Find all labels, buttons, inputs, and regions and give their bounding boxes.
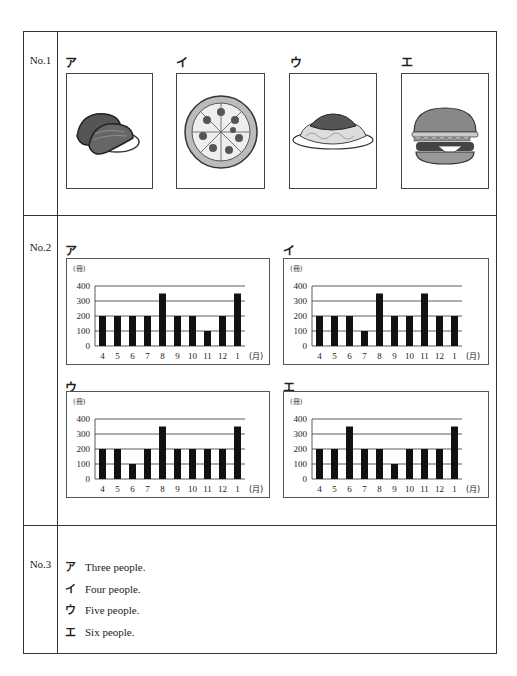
svg-text:(月): (月) bbox=[466, 485, 480, 494]
answer-text: Five people. bbox=[85, 604, 139, 616]
option-card-hamburger[interactable] bbox=[401, 73, 489, 189]
svg-text:8: 8 bbox=[377, 484, 382, 494]
hamburger-icon bbox=[402, 74, 488, 188]
svg-text:9: 9 bbox=[175, 351, 180, 361]
svg-text:300: 300 bbox=[294, 296, 308, 306]
option-card-pizza[interactable] bbox=[176, 73, 265, 189]
spaghetti-icon bbox=[290, 74, 376, 188]
option-key: ア bbox=[65, 53, 77, 70]
row-divider bbox=[24, 215, 496, 216]
question-number-1: No.1 bbox=[24, 54, 57, 66]
svg-text:4: 4 bbox=[100, 351, 105, 361]
bar-chart-e-plot: (冊)01002003004004567891011121(月) bbox=[284, 392, 488, 497]
svg-text:0: 0 bbox=[303, 474, 308, 484]
svg-text:4: 4 bbox=[317, 484, 322, 494]
svg-text:4: 4 bbox=[100, 484, 105, 494]
row-divider bbox=[24, 525, 496, 526]
svg-text:11: 11 bbox=[420, 484, 429, 494]
answer-option-i[interactable]: イFour people. bbox=[65, 580, 141, 596]
svg-text:7: 7 bbox=[362, 484, 367, 494]
svg-text:1: 1 bbox=[452, 484, 457, 494]
svg-text:300: 300 bbox=[77, 296, 91, 306]
option-key: ア bbox=[65, 241, 77, 258]
svg-text:400: 400 bbox=[77, 414, 91, 424]
bar-chart-i-plot: (冊)01002003004004567891011121(月) bbox=[284, 259, 488, 364]
svg-text:7: 7 bbox=[145, 484, 150, 494]
svg-text:12: 12 bbox=[218, 484, 227, 494]
svg-text:300: 300 bbox=[77, 429, 91, 439]
answer-option-u[interactable]: ウFive people. bbox=[65, 601, 139, 617]
svg-text:8: 8 bbox=[160, 484, 165, 494]
svg-text:0: 0 bbox=[86, 474, 91, 484]
svg-text:11: 11 bbox=[420, 351, 429, 361]
answer-option-a[interactable]: アThree people. bbox=[65, 558, 145, 574]
answer-option-e[interactable]: エSix people. bbox=[65, 623, 135, 639]
answer-text: Six people. bbox=[85, 626, 135, 638]
svg-text:(月): (月) bbox=[249, 485, 263, 494]
svg-text:400: 400 bbox=[77, 281, 91, 291]
bar-chart-a-plot: (冊)01002003004004567891011121(月) bbox=[67, 259, 269, 364]
option-card-sushi[interactable] bbox=[66, 73, 153, 189]
question-sheet: No.1 ア イ ウ エ bbox=[23, 31, 497, 654]
svg-text:300: 300 bbox=[294, 429, 308, 439]
svg-text:7: 7 bbox=[145, 351, 150, 361]
svg-text:200: 200 bbox=[77, 444, 91, 454]
svg-text:(冊): (冊) bbox=[73, 265, 86, 273]
bar-chart-a[interactable]: (冊)01002003004004567891011121(月) bbox=[66, 258, 270, 365]
svg-text:100: 100 bbox=[294, 326, 308, 336]
bar-chart-i[interactable]: (冊)01002003004004567891011121(月) bbox=[283, 258, 489, 365]
svg-text:1: 1 bbox=[235, 351, 240, 361]
svg-text:200: 200 bbox=[294, 444, 308, 454]
option-key: イ bbox=[176, 53, 188, 70]
svg-text:10: 10 bbox=[405, 351, 415, 361]
sushi-icon bbox=[67, 74, 152, 188]
option-key: イ bbox=[283, 241, 295, 258]
option-card-spaghetti[interactable] bbox=[289, 73, 377, 189]
option-key: ウ bbox=[290, 53, 302, 70]
column-divider bbox=[57, 32, 58, 653]
question-number-2: No.2 bbox=[24, 241, 57, 253]
svg-text:9: 9 bbox=[175, 484, 180, 494]
svg-text:12: 12 bbox=[435, 351, 444, 361]
svg-text:7: 7 bbox=[362, 351, 367, 361]
svg-text:5: 5 bbox=[332, 351, 337, 361]
svg-text:100: 100 bbox=[294, 459, 308, 469]
bar-chart-e[interactable]: (冊)01002003004004567891011121(月) bbox=[283, 391, 489, 498]
svg-text:100: 100 bbox=[77, 459, 91, 469]
svg-text:5: 5 bbox=[115, 484, 120, 494]
bar-chart-u[interactable]: (冊)01002003004004567891011121(月) bbox=[66, 391, 270, 498]
svg-text:1: 1 bbox=[235, 484, 240, 494]
svg-text:(月): (月) bbox=[466, 352, 480, 361]
question-number-3: No.3 bbox=[24, 558, 57, 570]
svg-text:8: 8 bbox=[160, 351, 165, 361]
svg-text:100: 100 bbox=[77, 326, 91, 336]
svg-text:9: 9 bbox=[392, 351, 397, 361]
pizza-icon bbox=[177, 74, 264, 188]
svg-text:6: 6 bbox=[347, 351, 352, 361]
svg-text:12: 12 bbox=[435, 484, 444, 494]
svg-text:(冊): (冊) bbox=[290, 265, 303, 273]
svg-text:5: 5 bbox=[332, 484, 337, 494]
bar-chart-u-plot: (冊)01002003004004567891011121(月) bbox=[67, 392, 269, 497]
svg-text:10: 10 bbox=[188, 484, 198, 494]
svg-text:200: 200 bbox=[77, 311, 91, 321]
svg-text:10: 10 bbox=[188, 351, 198, 361]
option-key: エ bbox=[401, 53, 413, 70]
svg-text:(月): (月) bbox=[249, 352, 263, 361]
svg-text:8: 8 bbox=[377, 351, 382, 361]
svg-text:10: 10 bbox=[405, 484, 415, 494]
svg-text:0: 0 bbox=[86, 341, 91, 351]
svg-text:5: 5 bbox=[115, 351, 120, 361]
svg-text:400: 400 bbox=[294, 414, 308, 424]
answer-text: Three people. bbox=[85, 561, 145, 573]
svg-text:11: 11 bbox=[203, 484, 212, 494]
svg-text:6: 6 bbox=[347, 484, 352, 494]
svg-text:(冊): (冊) bbox=[73, 398, 86, 406]
svg-text:12: 12 bbox=[218, 351, 227, 361]
svg-text:6: 6 bbox=[130, 351, 135, 361]
svg-text:0: 0 bbox=[303, 341, 308, 351]
answer-text: Four people. bbox=[85, 583, 141, 595]
svg-text:400: 400 bbox=[294, 281, 308, 291]
svg-text:200: 200 bbox=[294, 311, 308, 321]
svg-text:6: 6 bbox=[130, 484, 135, 494]
